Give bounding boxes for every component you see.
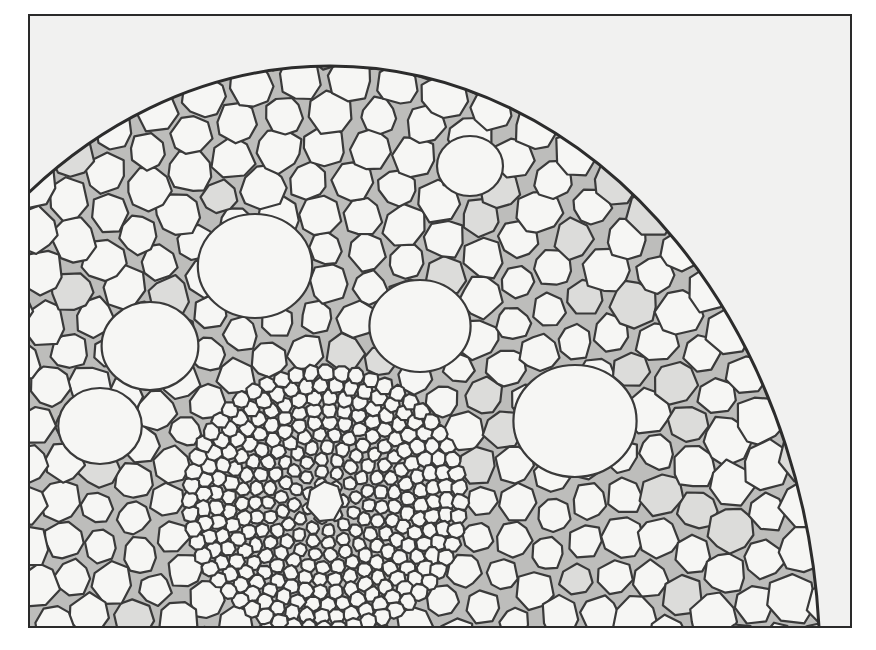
tissue-micrograph — [30, 16, 850, 626]
micrograph-frame — [28, 14, 852, 628]
